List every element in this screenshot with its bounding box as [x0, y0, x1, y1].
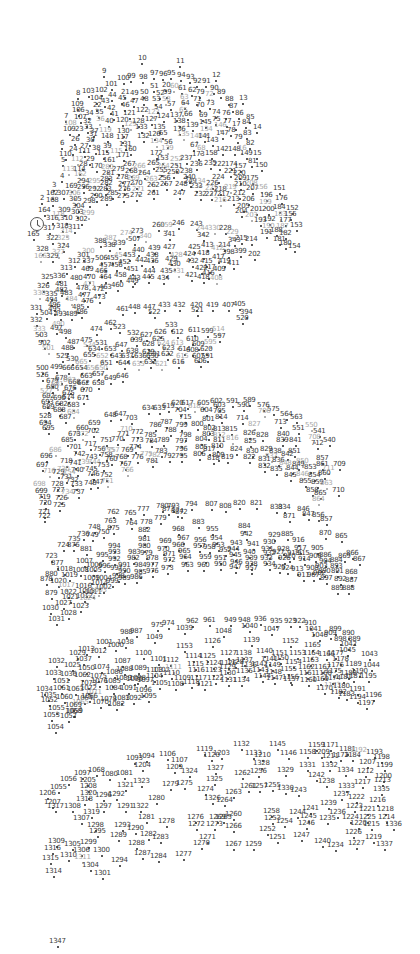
dot-marker[interactable]: [63, 550, 65, 552]
dot-marker[interactable]: [69, 477, 71, 479]
dot-marker[interactable]: [317, 448, 319, 450]
dot-marker[interactable]: [68, 721, 70, 723]
dot-marker[interactable]: [233, 849, 235, 851]
dot-marker[interactable]: [233, 797, 235, 799]
dot-marker[interactable]: [127, 475, 129, 477]
dot-point[interactable]: 1247: [293, 832, 310, 839]
dot-point[interactable]: 26: [71, 136, 79, 143]
dot-point[interactable]: 935: [270, 618, 282, 625]
dot-point[interactable]: 1272: [188, 821, 205, 828]
dot-point[interactable]: 960: [197, 562, 209, 569]
dot-marker[interactable]: [196, 829, 198, 831]
dot-marker[interactable]: [241, 216, 243, 218]
dot-marker[interactable]: [90, 870, 92, 872]
dot-point[interactable]: 1274: [197, 786, 214, 793]
dot-marker[interactable]: [279, 572, 281, 574]
dot-point[interactable]: 1057: [60, 713, 77, 720]
dot-point[interactable]: 1235: [319, 815, 336, 822]
dot-marker[interactable]: [56, 666, 58, 668]
dot-marker[interactable]: [284, 826, 286, 828]
dot-marker[interactable]: [362, 787, 364, 789]
dot-point[interactable]: 969: [159, 538, 171, 545]
dot-point[interactable]: 839: [276, 437, 288, 444]
dot-marker[interactable]: [135, 833, 137, 835]
dot-marker[interactable]: [371, 829, 373, 831]
dot-marker[interactable]: [329, 445, 331, 447]
dot-point[interactable]: 1275: [176, 780, 193, 787]
dot-point[interactable]: 1299: [80, 839, 97, 846]
dot-point[interactable]: 1146: [280, 750, 297, 757]
dot-point[interactable]: 815: [225, 426, 237, 433]
dot-marker[interactable]: [191, 687, 193, 689]
dot-point[interactable]: 976: [146, 568, 158, 575]
dot-marker[interactable]: [151, 446, 153, 448]
dot-point[interactable]: 10: [138, 55, 146, 62]
dot-point[interactable]: 857: [320, 516, 332, 523]
dot-marker[interactable]: [181, 517, 183, 519]
dot-point[interactable]: 521: [191, 307, 203, 314]
dot-point[interactable]: 448: [128, 304, 140, 311]
dot-marker[interactable]: [220, 205, 222, 207]
dot-point[interactable]: 646: [116, 373, 128, 380]
dot-point[interactable]: 259: [160, 222, 172, 229]
dot-point[interactable]: 261: [147, 190, 159, 197]
dot-point[interactable]: 139: [186, 122, 198, 129]
dot-point[interactable]: 989: [118, 575, 130, 582]
dot-marker[interactable]: [219, 169, 221, 171]
dot-point[interactable]: 72: [205, 91, 213, 98]
dot-marker[interactable]: [285, 468, 287, 470]
dot-marker[interactable]: [192, 266, 194, 268]
dot-point[interactable]: 150: [255, 162, 267, 169]
dot-marker[interactable]: [55, 811, 57, 813]
dot-marker[interactable]: [51, 720, 53, 722]
dot-point[interactable]: 133: [135, 124, 147, 131]
dot-point[interactable]: 1217: [354, 779, 371, 786]
dot-point[interactable]: 83: [243, 130, 251, 137]
dot-point[interactable]: 411: [227, 260, 239, 267]
dot-point[interactable]: 883: [192, 519, 204, 526]
dot-marker[interactable]: [242, 323, 244, 325]
dot-point[interactable]: 341: [163, 231, 175, 238]
dot-point[interactable]: 1251: [269, 834, 286, 841]
dot-point[interactable]: 94: [177, 72, 185, 79]
dot-point[interactable]: 621: [155, 361, 167, 368]
dot-point[interactable]: 503: [35, 332, 47, 339]
dot-marker[interactable]: [197, 429, 199, 431]
dot-point[interactable]: 799: [175, 422, 187, 429]
dot-marker[interactable]: [233, 819, 235, 821]
dot-marker[interactable]: [93, 436, 95, 438]
dot-point[interactable]: 778: [140, 519, 152, 526]
dot-marker[interactable]: [329, 770, 331, 772]
dot-point[interactable]: 1283: [152, 834, 169, 841]
dot-point[interactable]: 675: [62, 390, 74, 397]
dot-point[interactable]: 523: [113, 324, 125, 331]
dot-point[interactable]: 151: [273, 185, 285, 192]
dot-point[interactable]: 868: [345, 569, 357, 576]
dot-point[interactable]: 1147: [266, 675, 283, 682]
dot-point[interactable]: 14: [253, 124, 261, 131]
dot-point[interactable]: 70: [196, 102, 204, 109]
dot-point[interactable]: 1222: [348, 794, 365, 801]
dot-point[interactable]: 1216: [369, 797, 386, 804]
dot-marker[interactable]: [287, 573, 289, 575]
dot-marker[interactable]: [197, 315, 199, 317]
dot-marker[interactable]: [156, 803, 158, 805]
dot-marker[interactable]: [191, 280, 193, 282]
dot-point[interactable]: 57: [167, 101, 175, 108]
dot-marker[interactable]: [125, 647, 127, 649]
dot-point[interactable]: 1005: [85, 567, 102, 574]
dot-marker[interactable]: [260, 624, 262, 626]
dot-point[interactable]: 275: [117, 193, 129, 200]
dot-marker[interactable]: [136, 636, 138, 638]
dot-point[interactable]: 551: [292, 425, 304, 432]
dot-point[interactable]: 611: [188, 327, 200, 334]
dot-point[interactable]: 873: [162, 506, 174, 513]
dot-marker[interactable]: [285, 248, 287, 250]
dot-point[interactable]: 92: [193, 78, 201, 85]
dot-point[interactable]: 951: [214, 555, 226, 562]
dot-marker[interactable]: [204, 689, 206, 691]
dot-marker[interactable]: [306, 828, 308, 830]
dot-point[interactable]: 342: [197, 232, 209, 239]
dot-point[interactable]: 794: [185, 501, 197, 508]
dot-marker[interactable]: [178, 228, 180, 230]
